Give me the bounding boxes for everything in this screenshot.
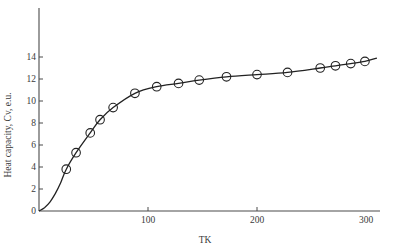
y-axis-title: Heat capacity, Cv, e.u. — [3, 92, 13, 177]
x-tick-label: 100 — [141, 215, 156, 225]
data-point-markers — [62, 57, 369, 173]
heat-capacity-chart: 02468101214100200300 TK Heat capacity, C… — [0, 0, 393, 250]
heat-capacity-curve — [39, 58, 377, 211]
x-tick-label: 300 — [359, 215, 374, 225]
axes — [39, 8, 380, 211]
x-tick-label: 200 — [250, 215, 265, 225]
axis-ticks: 02468101214100200300 — [27, 52, 374, 225]
y-tick-label: 6 — [31, 140, 36, 150]
y-tick-label: 4 — [31, 162, 36, 172]
y-tick-label: 2 — [31, 184, 36, 194]
y-tick-label: 8 — [31, 118, 36, 128]
x-axis-title: TK — [199, 235, 212, 245]
y-tick-label: 12 — [27, 74, 37, 84]
y-tick-label: 0 — [31, 206, 36, 216]
y-tick-label: 10 — [27, 96, 37, 106]
y-tick-label: 14 — [27, 52, 37, 62]
